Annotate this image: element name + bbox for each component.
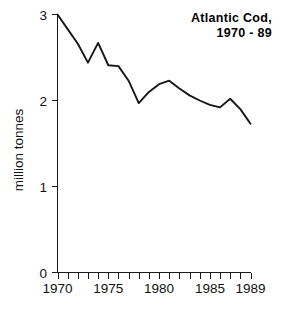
chart-background — [0, 0, 285, 310]
y-tick-label-3: 3 — [39, 8, 47, 23]
x-tick-label-1985: 1985 — [195, 281, 225, 296]
x-tick-label-1989: 1989 — [235, 281, 265, 296]
chart-figure: 0 1 2 3 million tonnes 1970 1975 1980 19… — [0, 0, 285, 310]
x-tick-label-1970: 1970 — [42, 281, 72, 296]
y-tick-label-0: 0 — [39, 266, 47, 281]
y-tick-label-1: 1 — [39, 180, 47, 195]
chart-title-line2: 1970 - 89 — [216, 26, 272, 40]
chart-title-line1: Atlantic Cod, — [191, 11, 272, 25]
x-tick-label-1980: 1980 — [144, 281, 174, 296]
y-tick-label-2: 2 — [39, 94, 47, 109]
x-tick-label-1975: 1975 — [93, 281, 123, 296]
y-axis-title: million tonnes — [11, 108, 26, 191]
line-chart: 0 1 2 3 million tonnes 1970 1975 1980 19… — [0, 0, 285, 310]
